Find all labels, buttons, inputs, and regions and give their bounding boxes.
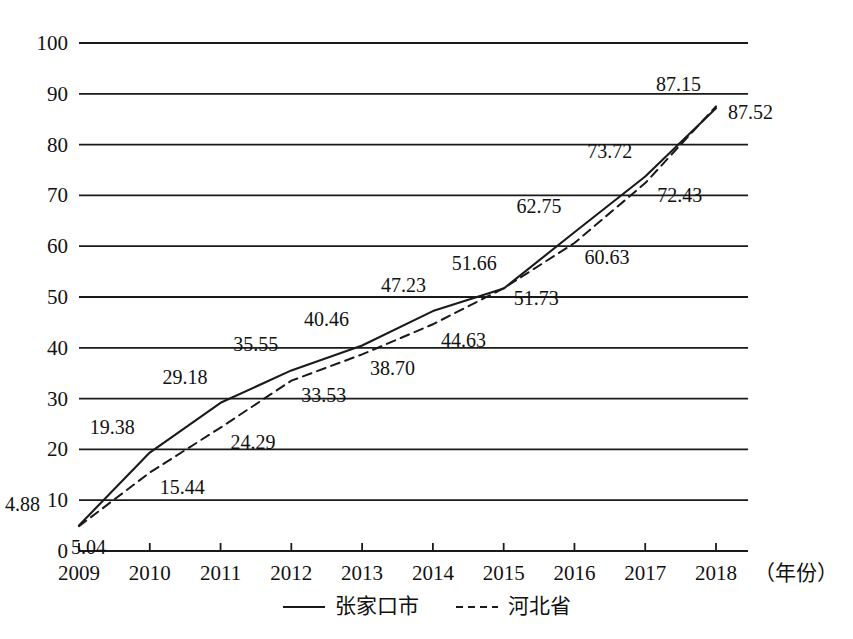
legend-item-hebei: 河北省	[455, 596, 571, 617]
x-axis-tick-label: 2014	[397, 563, 469, 584]
data-label: 44.63	[441, 330, 486, 350]
data-label: 29.18	[163, 367, 208, 387]
x-axis-tick-label: 2012	[255, 563, 327, 584]
x-axis-tick-label: 2016	[538, 563, 610, 584]
data-label: 51.73	[514, 288, 559, 308]
x-axis-tick-label: 2009	[43, 563, 115, 584]
x-axis-tick-label: 2017	[609, 563, 681, 584]
chart-legend: 张家口市 河北省	[0, 596, 853, 617]
data-label: 24.29	[231, 432, 276, 452]
data-label: 51.66	[452, 253, 497, 273]
data-label: 87.15	[656, 74, 701, 94]
x-axis-ticks	[79, 543, 716, 551]
data-label: 15.44	[160, 477, 205, 497]
y-axis-tick-label: 80	[20, 135, 68, 156]
data-label: 87.52	[728, 102, 773, 122]
data-label: 60.63	[584, 247, 629, 267]
legend-dashed-line-icon	[455, 601, 499, 613]
y-axis-tick-label: 50	[20, 287, 68, 308]
line-chart: 0102030405060708090100 20092010201120122…	[0, 0, 853, 639]
y-axis-tick-label: 0	[20, 541, 68, 562]
series-line-zhangjiakou	[79, 108, 716, 525]
x-axis-tick-label: 2010	[114, 563, 186, 584]
data-label: 4.88	[5, 494, 40, 514]
series-line-hebei	[79, 106, 716, 526]
x-axis-tick-label: 2015	[468, 563, 540, 584]
data-label: 19.38	[90, 417, 135, 437]
x-axis-unit-label: （年份）	[754, 563, 838, 584]
legend-item-zhangjiakou: 张家口市	[282, 596, 419, 617]
y-axis-tick-label: 60	[20, 236, 68, 257]
y-axis-tick-label: 100	[20, 33, 68, 54]
y-axis-tick-label: 70	[20, 185, 68, 206]
data-label: 40.46	[304, 309, 349, 329]
gridlines	[79, 43, 748, 551]
legend-solid-line-icon	[282, 601, 326, 613]
x-axis-tick-label: 2011	[185, 563, 257, 584]
data-label: 62.75	[516, 196, 561, 216]
data-label: 72.43	[657, 185, 702, 205]
data-label: 38.70	[370, 358, 415, 378]
chart-canvas	[0, 0, 853, 639]
x-axis-tick-label: 2018	[680, 563, 752, 584]
y-axis-tick-label: 40	[20, 338, 68, 359]
data-label: 73.72	[587, 141, 632, 161]
data-label: 47.23	[381, 275, 426, 295]
y-axis-tick-label: 30	[20, 389, 68, 410]
data-label: 5.04	[71, 537, 106, 557]
x-axis-tick-label: 2013	[326, 563, 398, 584]
legend-label-zhangjiakou: 张家口市	[335, 596, 419, 617]
data-label: 35.55	[233, 334, 278, 354]
legend-label-hebei: 河北省	[508, 596, 571, 617]
data-label: 33.53	[301, 385, 346, 405]
y-axis-tick-label: 20	[20, 439, 68, 460]
y-axis-tick-label: 90	[20, 84, 68, 105]
